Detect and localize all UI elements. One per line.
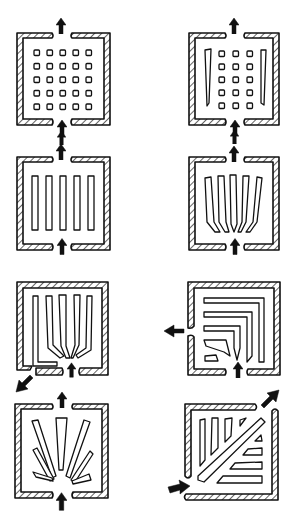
panel-f [164,282,280,378]
airflow-diagram [0,0,291,529]
outlet-arrow-icon [56,18,66,34]
square-block [47,91,53,97]
square-block [47,64,53,70]
square-block [60,77,66,83]
square-block [73,91,79,97]
square-block [86,91,92,97]
square-block [219,103,225,109]
square-block [233,51,239,57]
square-block [47,77,53,83]
diagonal-splitter [198,418,265,483]
panel-c [17,131,110,255]
square-block [60,91,66,97]
outlet-arrow-icon [57,392,67,408]
square-block [86,50,92,56]
square-block [233,90,239,96]
square-block [60,104,66,110]
inlet-arrow-icon [168,480,190,494]
outlet-arrow-icon [229,146,239,162]
square-block [47,104,53,110]
panel-h [168,390,279,500]
square-block [73,77,79,83]
square-block [34,77,40,83]
outlet-arrow-icon [164,325,184,337]
panel-b [189,18,279,136]
square-block [247,77,253,83]
square-block [233,64,239,70]
vertical-bar [60,176,66,230]
vertical-bar [46,176,52,230]
right-baffle [261,50,266,105]
room-walls [36,368,63,375]
square-block [233,103,239,109]
square-block [247,64,253,70]
square-block [233,77,239,83]
nested-guides [204,298,264,362]
radial-wedges [32,418,93,484]
square-block [86,77,92,83]
square-block [47,50,53,56]
square-block [86,64,92,70]
panel-g [15,392,108,510]
inlet-arrow-icon [230,239,240,255]
room-walls [244,157,279,250]
panel-e [16,282,108,392]
vertical-bars [32,176,94,230]
outlet-arrow-icon [16,375,33,392]
square-block [60,50,66,56]
square-block [34,64,40,70]
square-block [219,77,225,83]
square-block [73,50,79,56]
square-block [219,51,225,57]
square-block [247,103,253,109]
vertical-bar [74,176,80,230]
square-block [219,64,225,70]
fanning-fins [33,295,92,366]
outlet-arrow-icon [57,131,66,145]
outlet-arrow-icon [229,18,239,34]
square-block [86,104,92,110]
inlet-arrow-icon [67,363,76,377]
inlet-arrow-icon [57,239,67,255]
square-block [73,104,79,110]
inlet-arrow-icon [56,493,67,511]
panel-d [189,130,279,255]
square-block [60,64,66,70]
panel-a [17,18,110,136]
left-baffle [205,49,211,106]
vertical-bar [32,176,38,230]
square-block [247,90,253,96]
outlet-arrow-icon [56,144,66,160]
square-blocks [219,51,253,109]
square-block [73,64,79,70]
outlet-arrow-icon [261,390,279,408]
square-block [247,51,253,57]
square-block [219,90,225,96]
square-blocks [34,50,92,110]
outlet-arrow-icon [230,130,239,144]
square-block [34,91,40,97]
vertical-bar [88,176,94,230]
square-block [34,50,40,56]
square-block [34,104,40,110]
converging-fins [205,175,262,232]
inlet-arrow-icon [233,362,243,378]
